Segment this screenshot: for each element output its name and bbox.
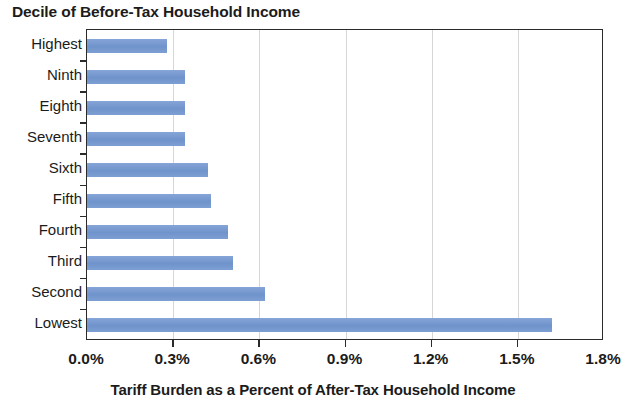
x-axis-tick (258, 340, 260, 347)
bar-second[interactable] (87, 287, 265, 301)
bar-seventh[interactable] (87, 132, 185, 146)
x-axis-tick-label: 0.0% (51, 350, 121, 368)
y-axis-tick (80, 122, 86, 124)
bar-row (87, 154, 602, 185)
bar-row (87, 30, 602, 61)
bar-chart-figure: Decile of Before-Tax Household Income Hi… (0, 0, 626, 408)
x-axis-tick-label: 1.8% (568, 350, 626, 368)
y-axis-label-lowest: Lowest (4, 314, 82, 331)
bar-row (87, 217, 602, 248)
y-axis-label-highest: Highest (4, 35, 82, 52)
x-axis-tick-label: 0.6% (223, 350, 293, 368)
y-axis-label-eighth: Eighth (4, 97, 82, 114)
y-axis-label-seventh: Seventh (4, 128, 82, 145)
bar-row (87, 248, 602, 279)
bar-fifth[interactable] (87, 194, 211, 208)
bar-highest[interactable] (87, 39, 167, 53)
y-axis-tick (80, 309, 86, 311)
y-axis-label-fifth: Fifth (4, 190, 82, 207)
y-axis-tick (80, 247, 86, 249)
bar-row (87, 123, 602, 154)
x-axis-tick (345, 340, 347, 347)
y-axis-label-second: Second (4, 283, 82, 300)
y-axis-label-sixth: Sixth (4, 159, 82, 176)
x-axis-tick-label: 1.5% (482, 350, 552, 368)
y-axis-category-labels: HighestNinthEighthSeventhSixthFifthFourt… (0, 29, 82, 340)
x-axis-tick-label: 0.9% (310, 350, 380, 368)
chart-title: Decile of Before-Tax Household Income (12, 3, 300, 21)
x-axis-tick (172, 340, 174, 347)
bar-row (87, 61, 602, 92)
bar-fourth[interactable] (87, 225, 228, 239)
y-axis-tick (80, 278, 86, 280)
y-axis-tick (80, 60, 86, 62)
bar-row (87, 310, 602, 341)
bar-lowest[interactable] (87, 318, 552, 332)
y-axis-tick (80, 216, 86, 218)
y-axis-label-fourth: Fourth (4, 221, 82, 238)
bar-row (87, 279, 602, 310)
y-axis-tick (80, 91, 86, 93)
bar-ninth[interactable] (87, 70, 185, 84)
y-axis-tick (80, 185, 86, 187)
bar-row (87, 186, 602, 217)
bar-eighth[interactable] (87, 101, 185, 115)
x-axis-tick-label: 0.3% (137, 350, 207, 368)
x-axis-tick (517, 340, 519, 347)
x-axis-tick-label: 1.2% (396, 350, 466, 368)
bar-row (87, 92, 602, 123)
x-axis-tick (431, 340, 433, 347)
bar-third[interactable] (87, 256, 233, 270)
bar-sixth[interactable] (87, 163, 208, 177)
y-axis-label-third: Third (4, 252, 82, 269)
x-axis-title: Tariff Burden as a Percent of After-Tax … (0, 381, 626, 398)
y-axis-label-ninth: Ninth (4, 66, 82, 83)
plot-area (86, 29, 603, 340)
y-axis-tick (80, 153, 86, 155)
